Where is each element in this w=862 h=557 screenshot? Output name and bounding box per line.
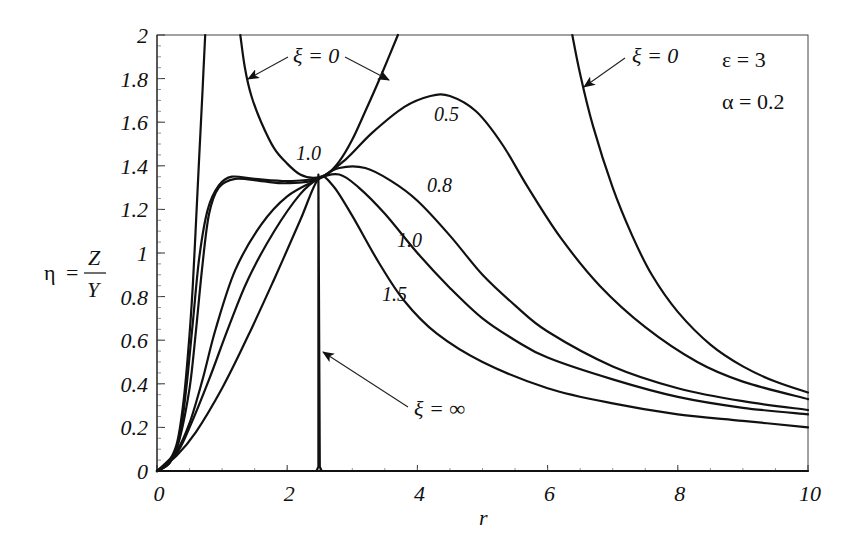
x-tick-label: 2 — [284, 481, 295, 506]
xi-zero-label-center: ξ = 0 — [293, 43, 339, 68]
curve-series-7 — [157, 176, 318, 471]
y-tick-label: 0.4 — [121, 372, 149, 397]
curve-label-1-0-top: 1.0 — [296, 142, 321, 164]
y-tick-label: 1 — [137, 241, 148, 266]
y-axis-label: η = Z Y — [44, 245, 106, 302]
curve-label-0-8: 0.8 — [427, 174, 452, 196]
eta-symbol: η — [44, 260, 56, 285]
arrow-xi-zero-left — [248, 57, 288, 79]
xi-infinity-label: ξ = ∞ — [414, 396, 465, 421]
y-tick-label: 0 — [137, 459, 148, 484]
curve-series-3 — [157, 94, 808, 471]
denominator-y: Y — [87, 277, 102, 302]
y-tick-label: 0.6 — [121, 328, 149, 353]
y-tick-label: 1.6 — [121, 110, 149, 135]
x-tick-label: 6 — [544, 481, 555, 506]
y-tick-label: 1.8 — [121, 67, 149, 92]
arrow-xi-zero-far-right — [584, 58, 625, 87]
numerator-z: Z — [88, 245, 101, 270]
x-tick-label: 10 — [799, 481, 821, 506]
curve-series-6 — [157, 177, 808, 471]
alpha-label: α = 0.2 — [722, 89, 784, 114]
equals-sign: = — [66, 260, 78, 285]
y-tick-label: 1.4 — [121, 154, 149, 179]
curve-label-1-0: 1.0 — [397, 229, 422, 251]
xi-zero-label-right: ξ = 0 — [632, 43, 678, 68]
y-tick-label: 1.2 — [121, 197, 149, 222]
curve-label-0-5: 0.5 — [434, 103, 459, 125]
curves — [157, 35, 808, 471]
y-tick-label: 2 — [137, 23, 148, 48]
y-axis-ticks: 00.20.40.60.811.21.41.61.82 — [121, 23, 166, 484]
curve-label-1-5: 1.5 — [382, 283, 407, 305]
x-tick-label: 8 — [674, 481, 685, 506]
y-tick-label: 0.8 — [121, 285, 149, 310]
x-tick-label: 0 — [154, 481, 165, 506]
arrow-xi-infinity — [323, 352, 408, 407]
plot-frame — [157, 35, 808, 471]
x-tick-label: 4 — [414, 481, 425, 506]
epsilon-label: ε = 3 — [722, 47, 766, 72]
x-axis-label: r — [479, 505, 488, 530]
chart: 00.20.40.60.811.21.41.61.82 0246810 η = … — [0, 0, 862, 557]
y-tick-label: 0.2 — [121, 415, 149, 440]
arrow-xi-zero-right — [345, 57, 389, 80]
